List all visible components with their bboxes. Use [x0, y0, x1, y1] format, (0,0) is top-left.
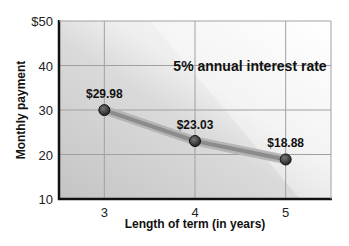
line-chart: 10203040$50 345 $29.98$23.03$18.88 5% an… [0, 0, 349, 246]
data-point-label: $29.98 [86, 87, 123, 101]
data-point-marker [99, 105, 110, 116]
y-tick-label: 20 [39, 148, 53, 163]
data-point-marker [190, 136, 201, 147]
chart-annotation-title: 5% annual interest rate [173, 58, 326, 74]
y-axis-label: Monthly payment [14, 61, 28, 160]
data-point-label: $18.88 [267, 136, 304, 150]
data-point-marker [280, 154, 291, 165]
y-tick-label: $50 [31, 14, 53, 29]
y-tick-label: 30 [39, 103, 53, 118]
y-tick-labels: 10203040$50 [31, 14, 53, 207]
y-tick-label: 10 [39, 192, 53, 207]
y-tick-label: 40 [39, 59, 53, 74]
x-axis-label: Length of term (in years) [125, 217, 266, 231]
x-tick-label: 3 [101, 205, 108, 220]
data-point-label: $23.03 [177, 118, 214, 132]
x-tick-label: 5 [282, 205, 289, 220]
